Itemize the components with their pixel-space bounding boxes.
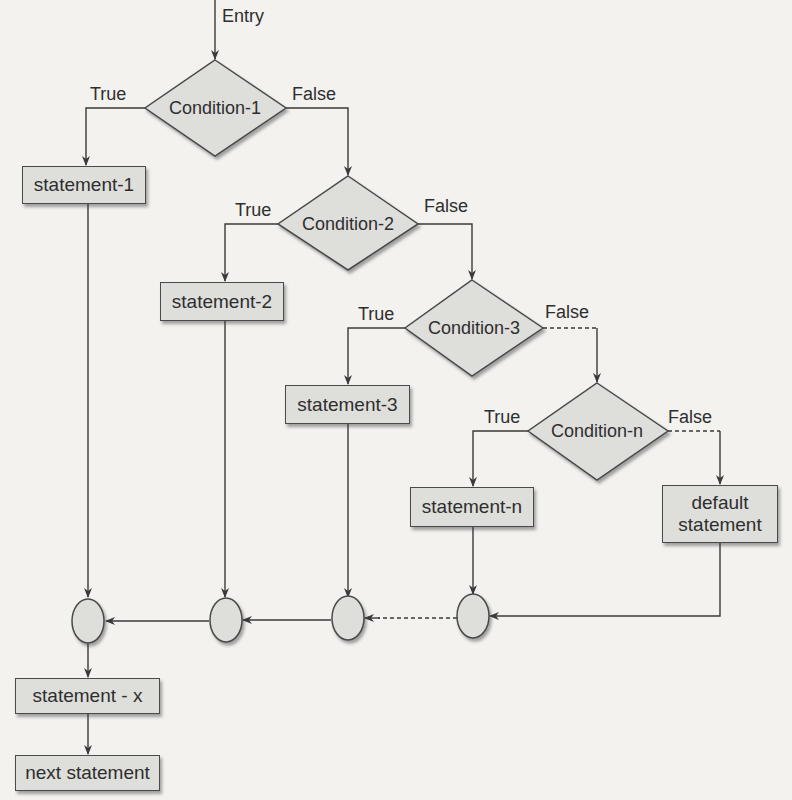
condition-1-false-label: False <box>292 84 336 105</box>
default-statement-label: default statement <box>669 492 771 536</box>
condition-1-true-label: True <box>90 84 126 105</box>
condition-3-true-label: True <box>358 304 394 325</box>
statement-n-box: statement-n <box>410 487 534 527</box>
statement-x-label: statement - x <box>33 685 143 707</box>
statement-n-label: statement-n <box>422 496 522 518</box>
default-statement-box: default statement <box>662 485 778 543</box>
junction-circle-4 <box>457 594 489 638</box>
statement-3-box: statement-3 <box>285 385 410 424</box>
next-statement-box: next statement <box>15 755 160 791</box>
junction-circle-2 <box>210 598 242 642</box>
condition-2-label: Condition-2 <box>302 214 394 235</box>
statement-1-label: statement-1 <box>34 174 134 196</box>
condition-n-label: Condition-n <box>551 421 643 442</box>
statement-2-box: statement-2 <box>160 282 284 321</box>
condition-n-false-label: False <box>668 407 712 428</box>
condition-2-true-label: True <box>235 200 271 221</box>
entry-label: Entry <box>222 6 264 27</box>
statement-3-label: statement-3 <box>297 394 397 416</box>
statement-2-label: statement-2 <box>172 291 272 313</box>
condition-2-false-label: False <box>424 196 468 217</box>
flowchart-canvas: Entry Condition-1 Condition-2 Condition-… <box>0 0 792 800</box>
junction-circle-1 <box>72 599 104 643</box>
condition-3-false-label: False <box>545 302 589 323</box>
statement-1-box: statement-1 <box>22 166 146 204</box>
statement-x-box: statement - x <box>15 678 160 714</box>
condition-1-label: Condition-1 <box>169 98 261 119</box>
next-statement-label: next statement <box>25 762 150 784</box>
condition-n-true-label: True <box>484 407 520 428</box>
condition-3-label: Condition-3 <box>428 318 520 339</box>
junction-circle-3 <box>332 596 364 640</box>
